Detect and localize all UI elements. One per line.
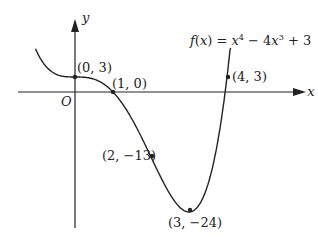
y-axis-arrow-icon — [71, 19, 79, 32]
function-label: f(x) = x4 − 4x3 + 3 — [189, 33, 311, 48]
point-label-0-3: (0, 3) — [77, 60, 112, 75]
x-axis-label: x — [307, 84, 315, 99]
point-3-m24 — [188, 208, 192, 212]
point-label-3-m24: (3, −24) — [168, 215, 222, 230]
point-label-2-m13: (2, −13) — [102, 148, 156, 163]
y-axis-label: y — [81, 10, 90, 25]
point-0-3 — [73, 75, 77, 79]
origin-label: O — [61, 94, 72, 109]
point-label-4-3: (4, 3) — [232, 69, 267, 84]
point-4-3 — [226, 75, 230, 79]
function-curve — [36, 48, 231, 212]
point-label-1-0: (1, 0) — [112, 76, 147, 91]
function-graph: y x O (0, 3) (1, 0) (2, −13) (3, −24) (4… — [0, 0, 318, 238]
x-axis-arrow-icon — [293, 88, 306, 96]
